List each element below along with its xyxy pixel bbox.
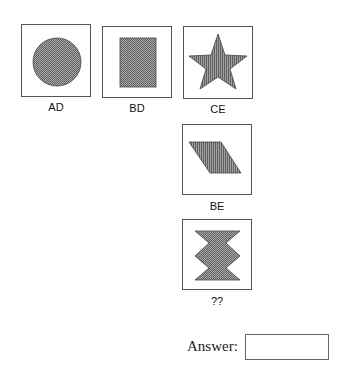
figure-be (182, 124, 252, 195)
figure-ce (183, 26, 253, 99)
rectangle-shape-icon (103, 27, 173, 99)
figure-label-unknown: ?? (182, 295, 252, 307)
circle-shape-icon (22, 25, 92, 98)
figure-label-bd: BD (102, 102, 172, 114)
zigzag-hourglass-shape-icon (183, 220, 253, 291)
figure-label-ce: CE (183, 103, 253, 115)
star-shape-icon (184, 27, 254, 100)
figure-unknown (182, 219, 252, 290)
answer-label: Answer: (187, 338, 238, 355)
figure-label-ad: AD (21, 101, 91, 113)
parallelogram-shape-icon (183, 125, 253, 196)
figure-label-be: BE (182, 200, 252, 212)
figure-bd (102, 26, 172, 98)
answer-input[interactable] (245, 334, 329, 360)
figure-ad (21, 24, 91, 97)
